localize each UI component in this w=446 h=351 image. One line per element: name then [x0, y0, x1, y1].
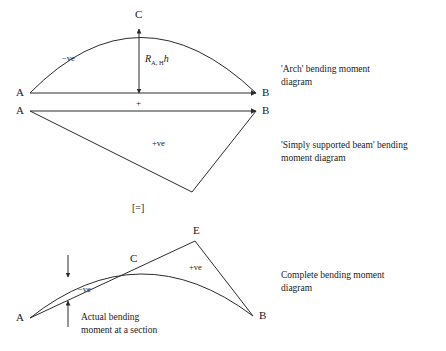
captions-group: 'Arch' bending moment diagram 'Simply su… — [281, 64, 408, 293]
arch-label-a: A — [16, 86, 24, 98]
beam-label-b: B — [262, 104, 269, 116]
complete-caption-line2: diagram — [281, 283, 313, 293]
dimension-multiplier: h — [164, 53, 169, 64]
arch-curve — [30, 38, 256, 94]
complete-label-c: C — [130, 252, 137, 264]
arch-diagram-group: A B C −ve + RA, Hh — [16, 8, 269, 108]
arch-negative-sign-label: −ve — [62, 53, 75, 63]
bending-moment-figure: A B C −ve + RA, Hh A B +ve [=] — [0, 0, 446, 351]
equals-symbol: [=] — [132, 202, 144, 213]
complete-right-edge — [195, 241, 253, 316]
complete-caption-line1: Complete bending moment — [281, 270, 385, 280]
beam-left-edge — [30, 111, 192, 192]
beam-right-edge — [192, 111, 256, 192]
beam-diagram-group: A B +ve — [16, 104, 269, 192]
arch-plus-marker: + — [136, 98, 141, 108]
arch-caption-line1: 'Arch' bending moment — [281, 64, 370, 74]
beam-caption-line2: moment diagram — [281, 153, 346, 163]
complete-label-a: A — [16, 311, 24, 323]
complete-diagram-group: A B C E −ve +ve Actual bending moment at… — [16, 224, 266, 335]
complete-left-edge — [30, 241, 195, 318]
beam-caption-line1: 'Simply supported beam' bending — [281, 140, 408, 150]
arch-rise-dimension-label: RA, Hh — [144, 53, 169, 66]
complete-arch-curve — [30, 274, 253, 318]
beam-positive-sign-label: +ve — [152, 138, 165, 148]
figure-canvas: A B C −ve + RA, Hh A B +ve [=] — [0, 0, 446, 351]
dimension-symbol: R — [144, 53, 151, 64]
dimension-subscript: A, H — [151, 59, 164, 66]
beam-label-a: A — [16, 104, 24, 116]
section-annotation-line1: Actual bending — [81, 312, 140, 322]
complete-negative-sign-label: −ve — [78, 284, 91, 294]
arch-label-b: B — [262, 86, 269, 98]
section-annotation-line2: moment at a section — [81, 325, 157, 335]
complete-label-b: B — [259, 309, 266, 321]
complete-positive-sign-label: +ve — [189, 262, 202, 272]
complete-label-e: E — [193, 224, 200, 236]
arch-caption-line2: diagram — [281, 77, 313, 87]
arch-label-c: C — [135, 8, 142, 20]
